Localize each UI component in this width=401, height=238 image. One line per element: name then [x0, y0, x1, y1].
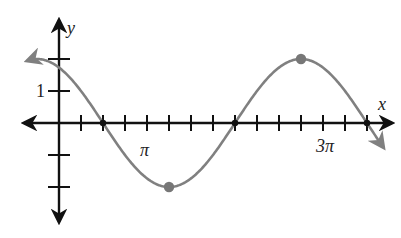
maximum-point	[296, 54, 306, 64]
x-tick-label-pi: π	[140, 140, 149, 161]
zero-point	[232, 120, 238, 126]
zero-point	[364, 120, 370, 126]
y-axis-label: y	[67, 18, 75, 39]
x-tick-label-3pi: 3π	[316, 136, 334, 157]
minimum-point	[164, 182, 174, 192]
sine-graph	[0, 0, 401, 238]
x-axis-label: x	[378, 94, 386, 115]
y-tick-label-1: 1	[36, 81, 45, 102]
zero-point	[100, 120, 106, 126]
